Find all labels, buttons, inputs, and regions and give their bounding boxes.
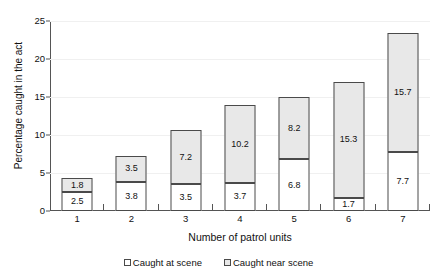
bar-value-label: 6.8 bbox=[288, 181, 301, 190]
bar-category: 3.57.2 bbox=[159, 21, 213, 211]
bar-segment-at-scene[interactable]: 7.7 bbox=[387, 152, 418, 211]
y-tick-label: 15 bbox=[34, 92, 45, 102]
bar-segment-at-scene[interactable]: 1.7 bbox=[333, 198, 364, 211]
bar-segment-near-scene[interactable]: 15.3 bbox=[333, 82, 364, 198]
bar-category: 2.51.8 bbox=[50, 21, 104, 211]
legend-item[interactable]: Caught at scene bbox=[124, 257, 202, 268]
stacked-bar-chart: Percentage caught in the act 0510152025 … bbox=[0, 0, 437, 279]
legend-swatch-icon bbox=[124, 259, 131, 266]
stacked-bar[interactable]: 3.710.2 bbox=[224, 105, 255, 211]
x-tick-label: 7 bbox=[376, 213, 430, 224]
x-tick-label: 6 bbox=[321, 213, 375, 224]
stacked-bar[interactable]: 3.83.5 bbox=[116, 156, 147, 211]
bar-segment-near-scene[interactable]: 1.8 bbox=[62, 178, 93, 192]
y-tick-label: 10 bbox=[34, 130, 45, 140]
legend-item[interactable]: Caught near scene bbox=[224, 257, 313, 268]
y-tick-label: 25 bbox=[34, 16, 45, 26]
x-axis-title: Number of patrol units bbox=[50, 231, 430, 243]
bar-value-label: 15.7 bbox=[394, 88, 412, 97]
bar-value-label: 3.7 bbox=[234, 192, 247, 201]
x-tick-label: 3 bbox=[159, 213, 213, 224]
bar-value-label: 1.7 bbox=[342, 200, 355, 209]
bar-group: 2.51.83.83.53.57.23.710.26.88.21.715.37.… bbox=[50, 21, 430, 211]
bar-value-label: 1.8 bbox=[71, 181, 84, 190]
bar-segment-at-scene[interactable]: 3.8 bbox=[116, 182, 147, 211]
bar-value-label: 7.7 bbox=[397, 177, 410, 186]
bar-value-label: 7.2 bbox=[179, 153, 192, 162]
y-tick-label: 20 bbox=[34, 54, 45, 64]
bar-segment-near-scene[interactable]: 8.2 bbox=[279, 97, 310, 159]
x-tick-mark bbox=[50, 204, 51, 211]
bar-value-label: 8.2 bbox=[288, 124, 301, 133]
bar-value-label: 3.8 bbox=[125, 192, 138, 201]
bar-segment-at-scene[interactable]: 6.8 bbox=[279, 159, 310, 211]
x-axis-tick-labels: 1234567 bbox=[50, 213, 430, 224]
stacked-bar[interactable]: 1.715.3 bbox=[333, 82, 364, 211]
stacked-bar[interactable]: 2.51.8 bbox=[62, 178, 93, 211]
bar-value-label: 3.5 bbox=[179, 193, 192, 202]
stacked-bar[interactable]: 7.715.7 bbox=[387, 33, 418, 211]
bar-value-label: 15.3 bbox=[340, 135, 358, 144]
x-tick-mark bbox=[429, 204, 430, 211]
y-axis-title: Percentage caught in the act bbox=[13, 6, 24, 206]
stacked-bar[interactable]: 3.57.2 bbox=[170, 130, 201, 211]
bar-category: 7.715.7 bbox=[376, 21, 430, 211]
plot-area: 0510152025 2.51.83.83.53.57.23.710.26.88… bbox=[50, 21, 430, 211]
bar-category: 3.710.2 bbox=[213, 21, 267, 211]
y-tick-label: 0 bbox=[40, 206, 45, 216]
y-tick-label: 5 bbox=[40, 168, 45, 178]
bar-category: 6.88.2 bbox=[267, 21, 321, 211]
stacked-bar[interactable]: 6.88.2 bbox=[279, 97, 310, 211]
x-tick-label: 1 bbox=[50, 213, 104, 224]
bar-segment-at-scene[interactable]: 2.5 bbox=[62, 192, 93, 211]
bar-segment-near-scene[interactable]: 15.7 bbox=[387, 33, 418, 152]
bar-segment-at-scene[interactable]: 3.5 bbox=[170, 184, 201, 211]
chart-legend: Caught at sceneCaught near scene bbox=[0, 257, 437, 268]
bar-segment-near-scene[interactable]: 3.5 bbox=[116, 156, 147, 183]
bar-value-label: 3.5 bbox=[125, 164, 138, 173]
bar-segment-near-scene[interactable]: 10.2 bbox=[224, 105, 255, 183]
x-tick-label: 5 bbox=[267, 213, 321, 224]
bar-category: 3.83.5 bbox=[104, 21, 158, 211]
x-tick-label: 4 bbox=[213, 213, 267, 224]
legend-label: Caught near scene bbox=[233, 257, 313, 268]
bar-value-label: 10.2 bbox=[231, 140, 249, 149]
bar-segment-near-scene[interactable]: 7.2 bbox=[170, 130, 201, 185]
legend-label: Caught at scene bbox=[133, 257, 202, 268]
bar-segment-at-scene[interactable]: 3.7 bbox=[224, 183, 255, 211]
bar-category: 1.715.3 bbox=[321, 21, 375, 211]
bar-value-label: 2.5 bbox=[71, 197, 84, 206]
legend-swatch-icon bbox=[224, 259, 231, 266]
x-tick-label: 2 bbox=[104, 213, 158, 224]
